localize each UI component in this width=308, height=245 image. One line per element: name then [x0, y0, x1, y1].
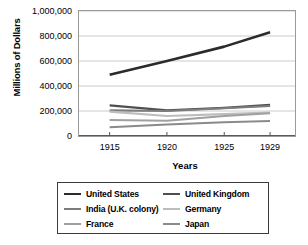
- legend-swatch-united-kingdom: [163, 193, 180, 195]
- plot-area: [78, 10, 296, 137]
- legend-label-germany: Germany: [185, 204, 221, 214]
- legend-swatch-united-states: [64, 193, 81, 195]
- legend-swatch-japan: [163, 223, 180, 225]
- legend-item-united-states[interactable]: United States: [64, 186, 163, 201]
- legend-row: United StatesUnited Kingdom: [64, 186, 262, 201]
- legend-item-germany[interactable]: Germany: [163, 201, 262, 216]
- y-tick-label: 0: [14, 132, 72, 141]
- y-tick-label: 800,000: [14, 32, 72, 41]
- y-tick-label: 1,000,000: [14, 7, 72, 16]
- x-tick-label: 1929: [248, 142, 292, 152]
- legend-label-japan: Japan: [185, 219, 209, 229]
- line-chart-figure: Millions of Dollars 0200,000400,000600,0…: [0, 0, 308, 245]
- legend-item-united-kingdom[interactable]: United Kingdom: [163, 186, 262, 201]
- plot-svg: [79, 11, 295, 136]
- legend-item-japan[interactable]: Japan: [163, 216, 262, 231]
- chart-legend: United StatesUnited KingdomIndia (U.K. c…: [57, 182, 269, 234]
- x-tick-label: 1915: [88, 142, 132, 152]
- legend-row: India (U.K. colony)Germany: [64, 201, 262, 216]
- y-tick-label: 400,000: [14, 82, 72, 91]
- series-line-japan: [110, 121, 270, 127]
- series-lines: [110, 32, 270, 127]
- x-tick-label: 1920: [145, 142, 189, 152]
- legend-swatch-germany: [163, 208, 180, 210]
- x-tick-label: 1925: [202, 142, 246, 152]
- x-axis-title: Years: [74, 160, 296, 171]
- legend-item-france[interactable]: France: [64, 216, 163, 231]
- legend-row: FranceJapan: [64, 216, 262, 231]
- y-tick-label: 600,000: [14, 57, 72, 66]
- legend-swatch-france: [64, 223, 81, 225]
- legend-label-france: France: [86, 219, 113, 229]
- legend-swatch-india-u-k-colony: [64, 208, 81, 210]
- legend-label-united-kingdom: United Kingdom: [185, 189, 249, 199]
- legend-item-india-u-k-colony[interactable]: India (U.K. colony): [64, 201, 163, 216]
- series-line-united-states: [110, 32, 270, 75]
- legend-label-india-u-k-colony: India (U.K. colony): [86, 204, 159, 214]
- y-tick-label: 200,000: [14, 107, 72, 116]
- legend-label-united-states: United States: [86, 189, 139, 199]
